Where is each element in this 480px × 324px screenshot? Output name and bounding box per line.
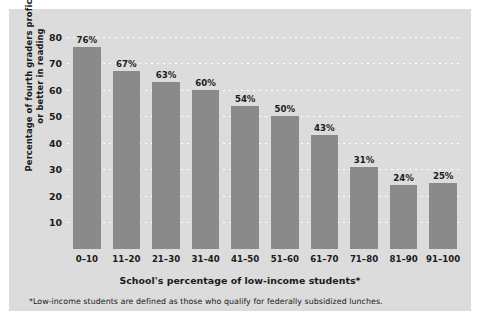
x-axis-tick-label: 21–30: [152, 254, 180, 264]
plot-area: 102030405060708076%0–1067%11–2063%21–306…: [67, 26, 463, 249]
bar-value-label: 24%: [393, 173, 414, 183]
bar-value-label: 63%: [156, 70, 177, 80]
bar-value-label: 43%: [314, 123, 335, 133]
x-axis-tick-label: 31–40: [191, 254, 219, 264]
y-axis-tick-label: 80: [49, 31, 62, 42]
y-axis-tick-label: 10: [49, 217, 62, 228]
gridline: 80: [67, 37, 463, 38]
y-axis-tick-label: 50: [49, 111, 62, 122]
bar[interactable]: [350, 167, 378, 249]
bar-value-label: 25%: [433, 171, 454, 181]
y-axis-tick-label: 20: [49, 190, 62, 201]
x-axis-title: School's percentage of low-income studen…: [9, 275, 471, 286]
chart-footnote: *Low-income students are defined as thos…: [29, 297, 383, 306]
y-axis-tick-label: 40: [49, 137, 62, 148]
bar-value-label: 50%: [275, 104, 296, 114]
x-axis-tick-label: 81–90: [389, 254, 417, 264]
bar-value-label: 76%: [77, 35, 98, 45]
x-axis-tick-label: 41–50: [231, 254, 259, 264]
y-axis-tick-label: 60: [49, 84, 62, 95]
x-axis-tick-label: 51–60: [271, 254, 299, 264]
x-axis-tick-label: 71–80: [350, 254, 378, 264]
x-axis-tick-label: 91–100: [426, 254, 460, 264]
bar[interactable]: [311, 135, 339, 249]
x-axis-tick-label: 0–10: [76, 254, 98, 264]
bar-value-label: 67%: [116, 59, 137, 69]
bar[interactable]: [231, 106, 259, 249]
bar-value-label: 54%: [235, 94, 256, 104]
bar[interactable]: [429, 183, 457, 249]
bar[interactable]: [390, 185, 418, 249]
x-axis-tick-label: 11–20: [112, 254, 140, 264]
y-axis-tick-label: 70: [49, 58, 62, 69]
bar[interactable]: [113, 71, 141, 249]
bar[interactable]: [192, 90, 220, 249]
bar-value-label: 31%: [354, 155, 375, 165]
bar[interactable]: [73, 47, 101, 249]
bar[interactable]: [271, 116, 299, 249]
bar-value-label: 60%: [195, 78, 216, 88]
chart-figure: Percentage of fourth graders proficient …: [9, 9, 471, 311]
y-axis-title: Percentage of fourth graders proficient …: [22, 0, 48, 176]
x-axis-tick-label: 61–70: [310, 254, 338, 264]
y-axis-tick-label: 30: [49, 164, 62, 175]
bar[interactable]: [152, 82, 180, 249]
